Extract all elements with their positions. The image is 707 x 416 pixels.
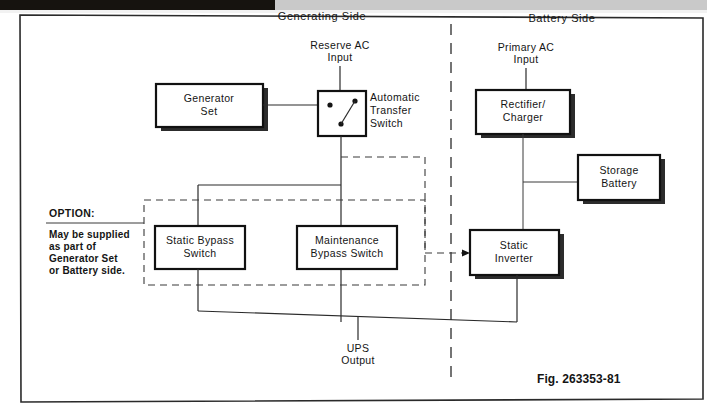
static-bypass-switch-label-line1: Static Bypass <box>166 234 234 246</box>
rectifier-charger-label-line2: Charger <box>503 111 544 123</box>
ats-contact-dot-input <box>327 102 332 107</box>
storage-battery-label-line2: Battery <box>601 177 637 189</box>
static-bypass-switch-label-line2: Switch <box>183 247 216 259</box>
figure-caption: Fig. 263353-81 <box>537 372 621 386</box>
option-note-line1: May be supplied <box>49 229 130 240</box>
generator-set-label-line2: Set <box>201 105 218 117</box>
option-note-title: OPTION: <box>49 207 95 219</box>
rectifier-charger-label-line1: Rectifier/ <box>501 98 546 110</box>
ups-output-label-line1: UPS <box>347 342 370 354</box>
reserve-ac-input-label-line1: Reserve AC <box>310 39 370 51</box>
primary-ac-input-label-line1: Primary AC <box>498 41 555 53</box>
storage-battery-label-line1: Storage <box>599 164 638 176</box>
header-generating-side: Generating Side <box>278 10 367 22</box>
header-battery-side: Battery Side <box>528 12 595 24</box>
automatic-transfer-switch-box[interactable] <box>318 91 366 136</box>
static-inverter-input-arrowhead <box>462 250 470 257</box>
option-note-line4: or Battery side. <box>49 265 125 276</box>
static-inverter-label-line1: Static <box>500 239 528 251</box>
ups-output-label-line2: Output <box>341 354 375 366</box>
ats-label-line2: Transfer <box>370 104 412 116</box>
ups-block-diagram: Generating Side Battery Side Reserve AC … <box>0 0 707 416</box>
primary-ac-input-label-line2: Input <box>513 53 538 65</box>
static-inverter-label-line2: Inverter <box>495 252 534 264</box>
option-note-line3: Generator Set <box>49 253 118 264</box>
maintenance-bypass-switch-label-line1: Maintenance <box>315 234 379 246</box>
scan-artifact-bottom-edge <box>0 406 707 416</box>
ats-label-line1: Automatic <box>370 91 420 103</box>
ats-label-line3: Switch <box>370 117 403 129</box>
generator-set-label-line1: Generator <box>184 92 235 104</box>
maintenance-bypass-switch-label-line2: Bypass Switch <box>311 247 384 259</box>
option-note-line2: as part of <box>49 241 96 252</box>
reserve-ac-input-label-line2: Input <box>327 51 352 63</box>
figure-page: Generating Side Battery Side Reserve AC … <box>0 0 707 416</box>
